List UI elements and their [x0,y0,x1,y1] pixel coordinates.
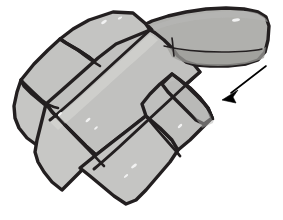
illustration-canvas [0,0,283,220]
stone-slab-figure [0,0,283,220]
